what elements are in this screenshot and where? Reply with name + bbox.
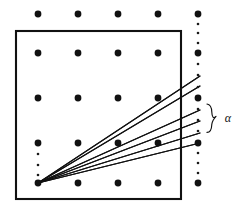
small-dot xyxy=(37,153,40,156)
small-dot xyxy=(37,164,40,167)
lattice-dot xyxy=(195,180,202,187)
small-dot xyxy=(197,119,200,122)
lattice-dot xyxy=(155,140,162,147)
lattice-figure: α xyxy=(0,0,244,216)
lattice-dot xyxy=(35,11,42,18)
lattice-dot xyxy=(115,140,122,147)
alpha-angle-label: α xyxy=(225,111,232,125)
lattice-dot xyxy=(75,50,82,57)
lattice-dot xyxy=(35,180,42,187)
small-dot xyxy=(37,174,40,177)
lattice-dot xyxy=(115,11,122,18)
small-dot xyxy=(197,86,200,89)
small-dot xyxy=(197,152,200,155)
small-dot xyxy=(197,130,200,133)
figure-canvas: α xyxy=(0,0,244,216)
small-dot xyxy=(197,172,200,175)
small-dot xyxy=(197,108,200,111)
lattice-dot xyxy=(155,50,162,57)
small-dot xyxy=(197,42,200,45)
lattice-dot xyxy=(195,11,202,18)
lattice-dot xyxy=(35,95,42,102)
lattice-dot xyxy=(155,180,162,187)
lattice-dot xyxy=(35,50,42,57)
lattice-dot xyxy=(75,95,82,102)
small-dot xyxy=(197,32,200,35)
lattice-dot xyxy=(155,95,162,102)
lattice-dot xyxy=(155,11,162,18)
small-dot xyxy=(197,23,200,26)
lattice-dot xyxy=(115,180,122,187)
lattice-dot xyxy=(75,11,82,18)
lattice-dot xyxy=(115,95,122,102)
lattice-dot xyxy=(195,140,202,147)
lattice-dot xyxy=(75,180,82,187)
lattice-dot xyxy=(35,140,42,147)
lattice-dot xyxy=(195,95,202,102)
small-dot xyxy=(197,162,200,165)
small-dot xyxy=(197,63,200,66)
lattice-dot xyxy=(115,50,122,57)
lattice-dot xyxy=(195,50,202,57)
lattice-dot xyxy=(75,140,82,147)
small-dot xyxy=(197,74,200,77)
